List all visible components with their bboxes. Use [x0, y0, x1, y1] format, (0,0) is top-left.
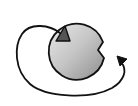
notched-circle-icon: [49, 24, 104, 80]
arrowhead-icon: [117, 56, 127, 66]
cycle-refill-icon: [0, 0, 138, 106]
cycle-icon-container: [0, 0, 138, 106]
